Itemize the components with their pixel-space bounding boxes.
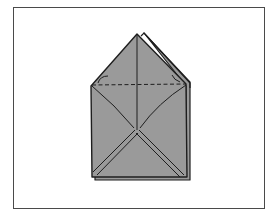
origami-diagram xyxy=(0,0,269,214)
front-sheet xyxy=(91,34,187,177)
